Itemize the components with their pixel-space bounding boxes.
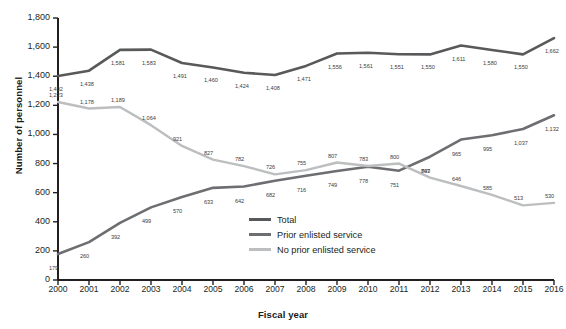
legend-item-0: Total xyxy=(249,212,376,227)
data-label: 1,581 xyxy=(111,61,125,67)
data-label: 1,556 xyxy=(328,65,342,71)
data-label: 1,408 xyxy=(266,86,280,92)
legend-label: Total xyxy=(277,215,296,225)
data-label: 642 xyxy=(235,199,244,205)
data-label: 1,178 xyxy=(80,100,94,106)
data-label: 682 xyxy=(266,193,275,199)
data-label: 726 xyxy=(266,165,275,171)
data-label: 1,471 xyxy=(297,77,311,83)
data-label: 1,580 xyxy=(483,61,497,67)
data-label: 1,550 xyxy=(421,65,435,71)
data-label: 827 xyxy=(204,151,213,157)
data-label: 1,662 xyxy=(545,49,559,55)
data-label: 783 xyxy=(359,157,368,163)
data-label: 1,491 xyxy=(173,74,187,80)
data-label: 179 xyxy=(49,266,58,272)
data-label: 260 xyxy=(80,254,89,260)
data-label: 921 xyxy=(173,137,182,143)
legend-item-1: Prior enlisted service xyxy=(249,227,376,242)
data-label: 995 xyxy=(483,147,492,153)
data-label: 570 xyxy=(173,209,182,215)
data-label: 513 xyxy=(514,196,523,202)
data-label: 1,438 xyxy=(80,82,94,88)
data-label: 1,064 xyxy=(142,116,156,122)
data-label: 800 xyxy=(390,155,399,161)
data-label: 965 xyxy=(452,152,461,158)
legend-label: Prior enlisted service xyxy=(277,230,362,240)
data-label: 703 xyxy=(421,169,430,175)
data-label: 499 xyxy=(142,219,151,225)
data-label: 751 xyxy=(390,183,399,189)
data-label: 1,037 xyxy=(514,141,528,147)
data-label: 782 xyxy=(235,157,244,163)
data-label: 1,551 xyxy=(390,65,404,71)
legend-item-2: No prior enlisted service xyxy=(249,242,376,257)
data-label: 1,550 xyxy=(514,65,528,71)
chart-container: Number of personnel Fiscal year 02004006… xyxy=(0,0,566,329)
data-label: 633 xyxy=(204,200,213,206)
data-label: 1,460 xyxy=(204,78,218,84)
series-line-0 xyxy=(58,38,554,76)
data-label: 716 xyxy=(297,188,306,194)
data-label: 585 xyxy=(483,186,492,192)
data-label: 1,223 xyxy=(49,93,63,99)
data-label: 646 xyxy=(452,177,461,183)
data-label: 755 xyxy=(297,161,306,167)
data-label: 1,561 xyxy=(359,64,373,70)
data-label: 1,189 xyxy=(111,98,125,104)
data-label: 530 xyxy=(545,194,554,200)
legend-swatch xyxy=(249,233,271,236)
data-label: 1,611 xyxy=(452,57,465,63)
data-label: 1,583 xyxy=(142,61,156,67)
data-label: 749 xyxy=(328,183,337,189)
data-label: 392 xyxy=(111,235,120,241)
legend-swatch xyxy=(249,218,271,221)
data-label: 1,424 xyxy=(235,84,249,90)
plot-area xyxy=(0,0,566,329)
data-label: 807 xyxy=(328,154,337,160)
legend-label: No prior enlisted service xyxy=(277,245,376,255)
chart-legend: TotalPrior enlisted serviceNo prior enli… xyxy=(249,212,376,257)
data-label: 778 xyxy=(359,179,368,185)
data-label: 1,132 xyxy=(545,127,559,133)
legend-swatch xyxy=(249,248,271,251)
